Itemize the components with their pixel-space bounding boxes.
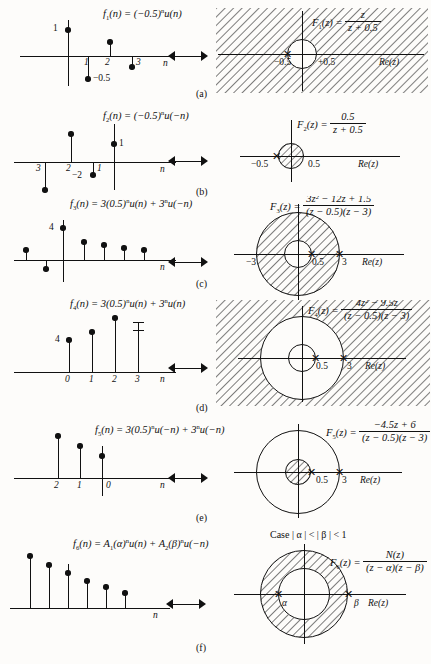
tick-label-right: 3 bbox=[342, 475, 347, 485]
sample-dot bbox=[122, 590, 127, 595]
x-axis bbox=[10, 608, 170, 609]
row-c-zplane: ✕ ✕ −3 0.5 3 Re(z) F3(z) = 3z² − 12z + 1… bbox=[232, 196, 430, 300]
stem-cap-bar bbox=[133, 330, 144, 331]
row-caption: (d) bbox=[196, 402, 208, 413]
x-tick: 1 bbox=[77, 480, 82, 490]
sample-dot bbox=[65, 27, 70, 32]
row-b-zplane: ✕ −0.5 0.5 Re(z) F2(z) = 0.5 z + 0.5 bbox=[240, 112, 430, 184]
sample-dot bbox=[77, 443, 82, 448]
sample-dot bbox=[112, 315, 117, 320]
denominator: (z − 0.5)(z − 3) bbox=[341, 310, 412, 323]
stem-n1 bbox=[92, 332, 93, 372]
sample-dot bbox=[129, 64, 134, 69]
x-axis bbox=[14, 372, 176, 373]
tick-label-mid: 0.5 bbox=[316, 475, 328, 485]
numerator: 3z² − 12z + 1.5 bbox=[303, 196, 374, 206]
stem-n-2 bbox=[58, 436, 59, 478]
denominator: (z − α)(z − β) bbox=[363, 562, 427, 575]
denominator: z + 0.5 bbox=[345, 22, 381, 35]
value-label: 4 bbox=[49, 222, 54, 232]
row-caption: (f) bbox=[196, 642, 206, 653]
value-label: −2 bbox=[72, 170, 82, 180]
row-d-zplane: ✕ ✕ 0.5 3 Re(z) F4(z) = 4z² − 9.5z (z − … bbox=[216, 300, 430, 406]
stem-n0 bbox=[114, 144, 115, 162]
row-c-time-equation: f3(n) = 3(0.5)nu(n) + 3nu(−n) bbox=[70, 198, 192, 209]
sample-dot bbox=[89, 329, 94, 334]
stem-n-3 bbox=[45, 162, 46, 190]
real-axis-label: Re(z) bbox=[379, 57, 399, 67]
sample-dot bbox=[60, 225, 65, 230]
figure-page: f1(n) = (−0.5)nu(n) 1 −0.5 1 2 3 n bbox=[0, 0, 431, 664]
real-axis-label: Re(z) bbox=[360, 475, 380, 485]
sample-dot bbox=[66, 337, 71, 342]
stem-n1 bbox=[87, 581, 88, 608]
sample-dot bbox=[81, 239, 86, 244]
numerator: −4.5z + 6 bbox=[359, 420, 430, 432]
bidirectional-arrow-icon bbox=[168, 472, 208, 484]
x-axis bbox=[14, 260, 176, 261]
value-label: 4 bbox=[55, 334, 60, 344]
real-axis bbox=[240, 156, 400, 157]
tick-label-right: 3 bbox=[342, 257, 347, 267]
x-axis-label: n bbox=[160, 262, 165, 272]
tick-label-left: −0.5 bbox=[251, 159, 268, 169]
real-axis-label: Re(z) bbox=[368, 598, 388, 608]
tick-label-right: +0.5 bbox=[318, 57, 335, 67]
sample-dot bbox=[68, 131, 73, 136]
stem-n-1 bbox=[80, 446, 81, 478]
row-caption: (c) bbox=[196, 278, 207, 289]
value-label: 1 bbox=[119, 138, 124, 148]
x-tick: 1 bbox=[97, 163, 102, 173]
stem-n1 bbox=[84, 242, 85, 260]
stem-n-1 bbox=[49, 565, 50, 608]
x-tick: 3 bbox=[136, 57, 141, 67]
case-condition-label: Case | α | < | β | < 1 bbox=[270, 530, 347, 540]
numerator: 0.5 bbox=[330, 112, 366, 124]
stem-n-2 bbox=[71, 134, 72, 162]
real-axis-label: Re(z) bbox=[365, 361, 385, 371]
row-caption: (b) bbox=[196, 186, 208, 197]
x-tick: 0 bbox=[65, 374, 70, 384]
stem-n0 bbox=[102, 456, 103, 478]
bidirectional-arrow-icon bbox=[168, 50, 208, 62]
row-b-transform-equation: F2(z) = 0.5 z + 0.5 bbox=[297, 112, 366, 138]
x-tick: 3 bbox=[135, 374, 140, 384]
stem-n0 bbox=[69, 340, 70, 372]
tick-label-left: −3 bbox=[246, 257, 256, 267]
numerator: z bbox=[345, 9, 381, 22]
x-tick: 2 bbox=[105, 57, 110, 67]
x-axis-label: n bbox=[160, 480, 165, 490]
row-f-stem-plot: n bbox=[10, 540, 190, 626]
row-e-transform-equation: F5(z) = −4.5z + 6 (z − 0.5)(z − 3) bbox=[326, 420, 430, 446]
stem-n-2 bbox=[30, 556, 31, 608]
row-f-zplane: ✕ ✕ α β Re(z) Case | α | < | β | < 1 F6(… bbox=[228, 530, 430, 646]
row-f-transform-equation: F6(z) = N(z) (z − α)(z − β) bbox=[330, 550, 427, 576]
stem-n2 bbox=[106, 587, 107, 608]
row-d-time-equation: f4(n) = 3(0.5)nu(n) + 3nu(n) bbox=[70, 298, 185, 309]
bidirectional-arrow-icon bbox=[168, 362, 208, 374]
pole-marker: ✕ bbox=[344, 590, 353, 598]
row-c-transform-equation: F3(z) = 3z² − 12z + 1.5 (z − 0.5)(z − 3) bbox=[270, 196, 374, 220]
sample-dot bbox=[141, 247, 146, 252]
tick-label-alpha: α bbox=[282, 598, 287, 608]
row-a-transform-equation: F1(z) = z z + 0.5 bbox=[312, 10, 381, 36]
row-e-zplane: ✕ ✕ 0.5 3 Re(z) F5(z) = −4.5z + 6 (z − 0… bbox=[232, 420, 430, 520]
x-tick: 1 bbox=[89, 374, 94, 384]
sample-dot bbox=[121, 245, 126, 250]
stem-n0 bbox=[68, 30, 69, 56]
real-axis-label: Re(z) bbox=[362, 257, 382, 267]
x-tick: 2 bbox=[54, 480, 59, 490]
sample-dot bbox=[46, 562, 51, 567]
stem-cap-bar-top bbox=[133, 322, 144, 323]
tick-label-right: 3 bbox=[347, 361, 352, 371]
x-axis bbox=[14, 478, 176, 479]
sample-dot bbox=[43, 266, 48, 271]
tick-label-right: 0.5 bbox=[308, 159, 320, 169]
denominator: z + 0.5 bbox=[330, 124, 366, 137]
x-tick: 0 bbox=[106, 480, 111, 490]
stem-n0 bbox=[68, 573, 69, 608]
sample-dot bbox=[42, 187, 47, 192]
row-caption: (a) bbox=[196, 88, 207, 99]
sample-dot bbox=[107, 39, 112, 44]
row-a-zplane: ✕ −0.5 +0.5 Re(z) F1(z) = z z + 0.5 bbox=[216, 8, 428, 93]
